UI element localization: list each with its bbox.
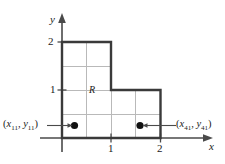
lower-right-paren-close: ): [208, 118, 212, 129]
coordinate-plane-figure: [0, 0, 225, 164]
right-leader-arrowhead: [143, 123, 148, 128]
lower-left-y-sub: 11: [28, 124, 35, 132]
x-tick-label-1: 1: [108, 143, 114, 154]
lower-right-sample-point-label: (x41, y41): [176, 119, 212, 132]
x-axis-label: x: [209, 141, 214, 152]
lower-left-sample-point-label: (x11, y11): [3, 119, 38, 132]
lower-left-x-sub: 11: [11, 124, 18, 132]
y-axis-arrowhead: [58, 13, 66, 23]
x-tick-label-2: 2: [157, 143, 163, 154]
y-axis-label: y: [50, 14, 55, 25]
y-tick-label-1: 1: [50, 84, 56, 95]
axes: [40, 20, 206, 152]
y-tick-label-2: 2: [48, 36, 54, 47]
region-label: R: [89, 85, 95, 95]
lower-left-paren-close: ): [35, 118, 39, 129]
